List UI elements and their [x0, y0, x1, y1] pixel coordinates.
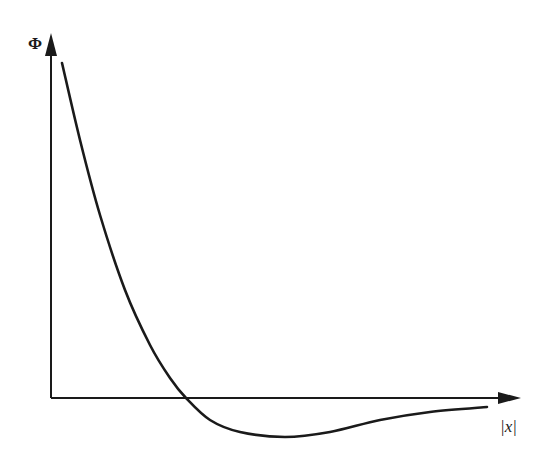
x-axis-arrow-icon — [498, 392, 521, 404]
potential-curve — [62, 63, 487, 437]
y-axis-label: Φ — [28, 34, 42, 54]
y-axis — [45, 33, 57, 398]
y-axis-arrow-icon — [45, 33, 57, 56]
potential-diagram — [0, 0, 549, 458]
x-axis — [51, 392, 521, 404]
x-axis-label: |x| — [500, 417, 517, 437]
